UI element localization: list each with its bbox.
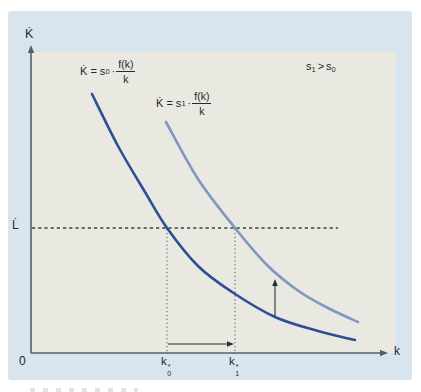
tick-subscript: 1 xyxy=(235,371,239,378)
plot-canvas xyxy=(0,0,421,392)
multiplication-dot: · xyxy=(112,66,116,77)
curve-s1-equation: K̇ = s1·f(k)k xyxy=(156,91,211,116)
saving-rate-inequality: s1>s0 xyxy=(306,61,336,74)
equation-subscript: 0 xyxy=(105,68,109,76)
x-tick-k1-star: k*1 xyxy=(229,356,239,377)
fraction-numerator: f(k) xyxy=(192,91,211,104)
fraction-denominator: k xyxy=(192,104,211,116)
s0-subscript: 0 xyxy=(332,65,336,74)
fraction: f(k)k xyxy=(192,91,211,116)
kdot-symbol: K̇ xyxy=(25,27,33,41)
equation-subscript: 1 xyxy=(181,100,185,108)
tick-base: k xyxy=(161,355,167,367)
l-dot-level-label: L̇ xyxy=(12,219,19,231)
x-tick-k0-star: k*0 xyxy=(161,356,171,377)
solow-growth-figure: K̇ L̇ 0 k s1>s0 K̇ = s0·f(k)k K̇ = s1·f(… xyxy=(0,0,421,392)
curve-s0-equation: K̇ = s0·f(k)k xyxy=(80,59,135,84)
y-axis-arrowhead xyxy=(28,45,34,53)
origin-label: 0 xyxy=(19,355,26,367)
fraction-numerator: f(k) xyxy=(116,59,135,72)
y-axis-label: K̇ xyxy=(25,28,33,41)
s1-subscript: 1 xyxy=(312,65,316,74)
tick-supsub: *1 xyxy=(235,364,239,377)
fraction-denominator: k xyxy=(116,72,135,84)
equation-lhs: K̇ = s xyxy=(80,66,105,77)
fraction: f(k)k xyxy=(116,59,135,84)
ldot-symbol: L̇ xyxy=(12,218,19,232)
cropped-caption-fragment xyxy=(30,388,138,392)
x-axis-label: k xyxy=(394,345,400,357)
tick-supsub: *0 xyxy=(167,364,171,377)
tick-base: k xyxy=(229,355,235,367)
greater-than-sign: > xyxy=(318,60,324,72)
tick-subscript: 0 xyxy=(167,371,171,378)
multiplication-dot: · xyxy=(188,98,192,109)
equation-lhs: K̇ = s xyxy=(156,98,181,109)
